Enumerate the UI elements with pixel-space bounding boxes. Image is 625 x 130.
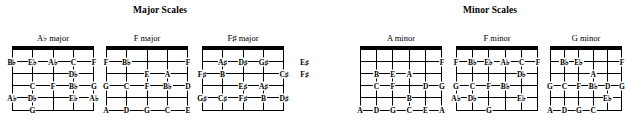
note-label: A♭: [500, 58, 510, 67]
note-label: B: [406, 94, 412, 103]
note-label: D♭: [467, 94, 477, 103]
note-label: D♭: [27, 94, 37, 103]
note-label: E♭: [484, 58, 494, 67]
note-label: A: [357, 106, 363, 115]
section-title-minor: Minor Scales: [440, 5, 540, 15]
note-label: D♭: [68, 70, 78, 79]
note-label: E: [423, 106, 429, 115]
string-line: [393, 50, 409, 61]
note-label: D: [373, 106, 379, 115]
note-label: G: [91, 82, 98, 91]
scale-name: F minor: [456, 32, 538, 44]
fret-row: [361, 50, 441, 62]
string-line: [377, 50, 393, 61]
note-label: A: [406, 70, 412, 79]
fret-grid: [360, 50, 442, 111]
note-label: D♯: [279, 94, 289, 103]
scale-name: F♯ major: [202, 32, 284, 44]
note-label: D: [185, 82, 191, 91]
note-label: B♭: [559, 58, 569, 67]
fretboard: FB♭FEAGCFB♭DADGCE: [106, 46, 188, 111]
note-label: D: [422, 82, 428, 91]
note-label: E: [185, 106, 191, 115]
note-label: E♭: [603, 94, 613, 103]
note-label: G: [619, 82, 625, 91]
note-label: B♭: [121, 58, 131, 67]
note-label: B: [260, 94, 266, 103]
note-label: G: [547, 82, 554, 91]
note-label: G: [439, 82, 446, 91]
note-label: A: [547, 106, 553, 115]
note-label: D♯: [238, 58, 248, 67]
note-label: A: [439, 106, 445, 115]
string-lines: [361, 50, 441, 61]
note-label: C: [29, 82, 35, 91]
note-label: F: [103, 58, 109, 67]
fretboard: A♯D♯G♯E♯F♯BC♯F♯E♯A♯G♯C♯F♯BD♯: [202, 46, 284, 111]
note-label: C: [373, 82, 379, 91]
note-label: F: [535, 58, 541, 67]
note-label: F: [91, 58, 97, 67]
scale-diagram: G minorB♭E♭FAGCFB♭DGE♭ADGC: [550, 32, 622, 111]
note-label: E♭: [574, 58, 584, 67]
fret-grid: [106, 50, 188, 111]
scale-chart-sheet: Major Scales Minor Scales A♭ majorB♭E♭A♭…: [0, 0, 625, 130]
note-label: A♭: [48, 58, 58, 67]
scale-diagram: A minorFBEACFDGBADGCEA: [360, 32, 442, 111]
note-label: C: [406, 106, 412, 115]
note-label: B♭: [500, 82, 510, 91]
string-line: [148, 50, 168, 61]
note-label: F: [390, 82, 396, 91]
note-label: F: [50, 82, 56, 91]
note-label: C: [469, 82, 475, 91]
note-label: A♭: [7, 94, 17, 103]
note-label: C♯: [217, 94, 227, 103]
string-lines: [107, 50, 187, 61]
note-label: C: [164, 106, 170, 115]
note-label: A♭: [451, 94, 461, 103]
note-label: A♯: [217, 58, 227, 67]
fret-row: [13, 98, 93, 110]
note-label: F: [439, 58, 445, 67]
note-label: F♯: [238, 94, 247, 103]
scale-name: A minor: [360, 32, 442, 44]
note-label: C: [590, 106, 596, 115]
note-label: G: [485, 106, 492, 115]
note-label: A♯: [258, 82, 268, 91]
note-label: B♭: [162, 82, 172, 91]
fretboard: FBEACFDGBADGCEA: [360, 46, 442, 111]
note-label: E: [144, 70, 150, 79]
note-label: F: [144, 82, 150, 91]
note-label: G: [389, 106, 396, 115]
string-line: [410, 50, 426, 61]
note-label: E: [390, 70, 396, 79]
note-label: G: [144, 106, 151, 115]
scale-name: F major: [106, 32, 188, 44]
note-label: G: [575, 106, 582, 115]
note-label: D: [561, 106, 567, 115]
note-label: C: [123, 82, 129, 91]
note-label: E♭: [517, 94, 527, 103]
note-label: E♭: [68, 94, 78, 103]
note-label: B♭: [7, 58, 17, 67]
string-line: [168, 50, 187, 61]
note-label: B: [219, 70, 225, 79]
note-label: A: [103, 106, 109, 115]
note-label: F♯: [300, 70, 309, 79]
scale-name: G minor: [550, 32, 622, 44]
note-label: F: [619, 58, 625, 67]
scale-diagram: A♭ majorB♭E♭A♭CFD♭CFB♭GA♭D♭E♭A♭G: [12, 32, 94, 111]
note-label: D♭: [516, 70, 526, 79]
note-label: E♯: [300, 58, 310, 67]
note-label: A: [164, 70, 170, 79]
scale-diagram: F♯ majorA♯D♯G♯E♯F♯BC♯F♯E♯A♯G♯C♯F♯BD♯: [202, 32, 284, 111]
note-label: C: [70, 58, 76, 67]
scale-diagram: F minorFB♭E♭A♭CFD♭GCFB♭A♭D♭E♭G: [456, 32, 538, 111]
note-label: C♯: [279, 70, 289, 79]
note-label: E♭: [27, 58, 37, 67]
note-label: G: [453, 82, 460, 91]
scale-name: A♭ major: [12, 32, 94, 44]
fretboard: B♭E♭FAGCFB♭DGE♭ADGC: [550, 46, 622, 111]
section-title-major: Major Scales: [110, 5, 210, 15]
note-label: B♭: [68, 82, 78, 91]
